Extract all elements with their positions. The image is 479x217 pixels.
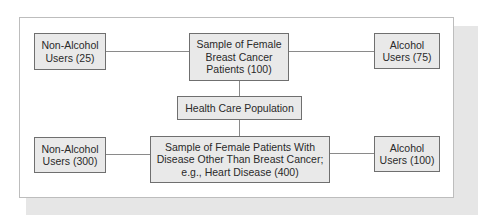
node-label: Non-Alcohol Users (25) [41, 39, 98, 64]
node-label: Non-Alcohol Users (300) [41, 143, 98, 168]
node-label: Alcohol Users (100) [380, 142, 435, 167]
node-od-non-alcohol-users: Non-Alcohol Users (300) [34, 137, 106, 173]
node-label: Sample of Female Patients With Disease O… [157, 141, 324, 179]
connector-population-to-od [239, 120, 240, 136]
node-breast-cancer-sample: Sample of Female Breast Cancer Patients … [189, 33, 289, 81]
connector-bc-to-non-alcohol [106, 51, 190, 52]
connector-bc-to-population [239, 81, 240, 96]
node-other-disease-sample: Sample of Female Patients With Disease O… [150, 136, 330, 183]
connector-od-to-non-alcohol [106, 154, 150, 155]
node-od-alcohol-users: Alcohol Users (100) [374, 136, 440, 172]
connector-od-to-alcohol [330, 153, 374, 154]
node-health-care-population: Health Care Population [177, 96, 302, 120]
node-label: Alcohol Users (75) [382, 39, 431, 64]
connector-bc-to-alcohol [289, 51, 374, 52]
node-bc-alcohol-users: Alcohol Users (75) [374, 33, 440, 69]
node-label: Health Care Population [185, 102, 294, 115]
node-label: Sample of Female Breast Cancer Patients … [196, 38, 281, 76]
node-bc-non-alcohol-users: Non-Alcohol Users (25) [34, 33, 106, 70]
